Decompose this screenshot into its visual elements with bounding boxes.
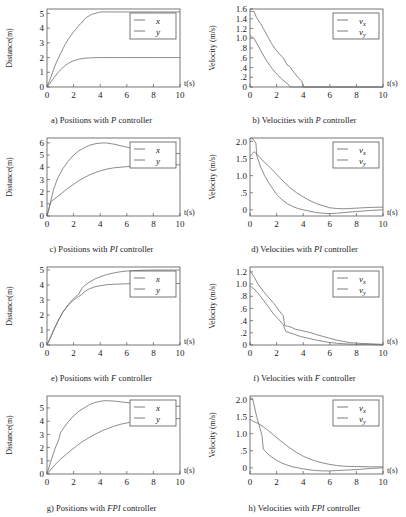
x-tick-label: 6 [328,90,333,100]
x-axis-label: t(s) [387,208,398,217]
series-line-y [47,418,180,474]
x-tick-label: 0 [45,477,50,487]
y-tick-label: 6 [40,138,45,148]
chart-panel-c: 02468100123456Distance(m)t(s)xyc) Positi… [0,129,203,258]
caption-prefix: d) Velocities with [251,244,314,254]
panel-caption-g: g) Positions with FPI controller [0,503,203,513]
x-tick-label: 6 [328,348,333,358]
caption-suffix: controller [116,115,152,125]
caption-controller-name: PI [314,244,322,254]
y-tick-label: 3 [40,38,45,48]
y-tick-label: .2 [240,72,247,82]
chart-panel-f: 02468100.2.4.6.81.01.2Velocity (m/s)t(s)… [203,258,406,387]
x-tick-label: 0 [248,477,253,487]
plot-area-a: 0246810012345Distance(m)t(s)xy [0,0,203,108]
x-tick-label: 2 [274,477,279,487]
x-tick-label: 6 [125,90,130,100]
x-tick-label: 8 [354,348,359,358]
y-axis-label: Velocity (m/s) [208,283,217,329]
chart-panel-h: 02468100.51.01.52.0Velocity (m/s)t(s)vxv… [203,387,406,517]
legend-label: x [155,145,160,155]
y-tick-label: 1.0 [236,33,248,43]
x-tick-label: 8 [151,477,156,487]
y-tick-label: 0 [40,340,45,350]
x-tick-label: 2 [274,348,279,358]
x-tick-label: 4 [301,219,306,229]
y-axis-label: Distance(m) [5,28,14,68]
caption-prefix: f) Velocities with [253,373,314,383]
chart-panel-e: 0246810012345Distance(m)t(s)xye) Positio… [0,258,203,387]
panel-caption-d: d) Velocities with PI controller [203,244,406,254]
y-tick-label: .5 [240,188,247,198]
legend-box [333,13,379,39]
x-tick-label: 10 [379,219,389,229]
y-tick-label: 1.6 [236,4,248,14]
y-tick-label: 1 [40,456,45,466]
y-tick-label: .4 [240,63,247,73]
x-tick-label: 4 [98,348,103,358]
plot-area-c: 02468100123456Distance(m)t(s)xy [0,129,203,237]
caption-prefix: e) Positions with [51,373,111,383]
y-tick-label: 2 [40,310,45,320]
panel-caption-c: c) Positions with PI controller [0,244,203,254]
x-tick-label: 2 [71,477,76,487]
x-tick-label: 8 [354,90,359,100]
x-tick-label: 0 [248,348,253,358]
x-tick-label: 10 [176,90,186,100]
y-tick-label: 1.0 [236,429,248,439]
caption-suffix: controller [116,373,152,383]
panel-caption-h: h) Velocities with FPI controller [203,503,406,513]
y-tick-label: 1.0 [236,171,248,181]
legend-box [333,271,379,297]
caption-controller-name: FPI [107,503,120,513]
x-tick-label: 8 [151,219,156,229]
caption-suffix: controller [325,503,361,513]
y-tick-label: 2.0 [236,395,248,405]
legend-box [130,142,176,168]
caption-suffix: controller [118,244,154,254]
x-axis-label: t(s) [387,466,398,475]
y-axis-label: Velocity (m/s) [208,412,217,458]
plot-area-g: 0246810012345Distance(m)t(s)xy [0,387,203,495]
series-line-y [47,58,180,87]
caption-prefix: c) Positions with [49,244,109,254]
legend-label: x [155,403,160,413]
y-tick-label: 1.2 [236,24,247,34]
series-line-y [47,165,180,216]
y-tick-label: 4 [40,23,45,33]
y-tick-label: 1 [40,325,45,335]
x-tick-label: 0 [248,90,253,100]
legend-label: y [155,27,160,37]
x-tick-label: 10 [176,477,186,487]
legend-label: x [155,274,160,284]
y-tick-label: 0 [243,82,248,92]
x-tick-label: 4 [301,348,306,358]
x-tick-label: 4 [301,477,306,487]
x-tick-label: 2 [274,90,279,100]
caption-prefix: g) Positions with [47,503,108,513]
x-tick-label: 4 [301,90,306,100]
x-tick-label: 2 [71,90,76,100]
x-tick-label: 8 [151,348,156,358]
y-tick-label: .6 [240,304,247,314]
y-tick-label: 1.4 [236,14,248,24]
caption-controller-name: FPI [311,503,324,513]
x-tick-label: 10 [379,348,389,358]
chart-panel-d: 02468100.51.01.52.0Velocity (m/s)t(s)vxv… [203,129,406,258]
y-tick-label: 0 [40,82,45,92]
legend-box [130,13,176,39]
y-tick-label: 2 [40,53,45,63]
y-tick-label: 4 [40,416,45,426]
x-tick-label: 2 [71,219,76,229]
y-axis-label: Distance(m) [5,415,14,455]
x-tick-label: 10 [379,90,389,100]
y-tick-label: .4 [240,316,247,326]
y-tick-label: 1 [40,199,45,209]
legend-label: y [155,156,160,166]
x-tick-label: 4 [98,90,103,100]
chart-panel-g: 0246810012345Distance(m)t(s)xyg) Positio… [0,387,203,517]
legend-label: x [155,16,160,26]
figure-grid: 0246810012345Distance(m)t(s)xya) Positio… [0,0,406,517]
y-tick-label: 2.0 [236,137,248,147]
y-tick-label: 0 [40,211,45,221]
